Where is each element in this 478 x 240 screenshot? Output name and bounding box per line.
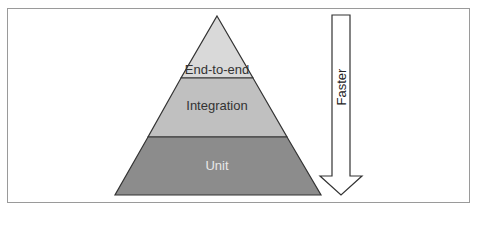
layer-label-integration: Integration bbox=[186, 98, 247, 113]
layer-label-unit: Unit bbox=[205, 158, 228, 173]
layer-label-end-to-end: End-to-end bbox=[185, 62, 249, 77]
arrow-label-faster: Faster bbox=[334, 69, 349, 106]
